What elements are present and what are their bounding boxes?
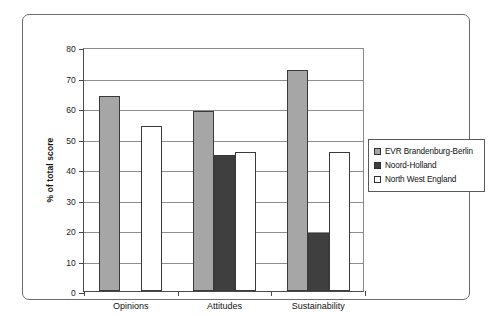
- y-axis-label-10: 10: [66, 258, 76, 268]
- y-axis-tick-80: [79, 49, 84, 50]
- bar-sustainability-series-2: [329, 152, 350, 291]
- y-gridline-60: [84, 110, 363, 111]
- y-axis-label-50: 50: [66, 136, 76, 146]
- y-axis-label-40: 40: [66, 166, 76, 176]
- legend-label-1: Noord-Holland: [385, 161, 437, 170]
- legend-swatch-icon-0: [374, 148, 381, 155]
- chart-frame: % of total score 01020304050607080Opinio…: [22, 14, 470, 300]
- plot-area: 01020304050607080OpinionsAttitudesSustai…: [83, 48, 364, 292]
- y-axis-tick-50: [79, 141, 84, 142]
- x-axis-tick-1: [271, 291, 272, 296]
- bar-opinions-series-0: [99, 96, 120, 291]
- y-axis-label-70: 70: [66, 75, 76, 85]
- y-gridline-50: [84, 141, 363, 142]
- bar-sustainability-series-1: [308, 233, 329, 291]
- y-axis-tick-60: [79, 110, 84, 111]
- y-axis-tick-20: [79, 232, 84, 233]
- x-axis-tick-2: [365, 291, 366, 296]
- chart-legend: EVR Brandenburg-BerlinNoord-HollandNorth…: [368, 139, 485, 192]
- legend-swatch-icon-2: [374, 176, 381, 183]
- y-axis-tick-70: [79, 80, 84, 81]
- y-gridline-70: [84, 80, 363, 81]
- legend-label-2: North West England: [385, 175, 456, 184]
- bar-attitudes-series-2: [235, 152, 256, 291]
- legend-item-2: North West England: [374, 172, 479, 186]
- x-axis-tick-0: [178, 291, 179, 296]
- y-axis-title: % of total score: [45, 138, 55, 203]
- legend-label-0: EVR Brandenburg-Berlin: [385, 147, 473, 156]
- y-axis-label-60: 60: [66, 105, 76, 115]
- legend-item-1: Noord-Holland: [374, 158, 479, 172]
- bar-attitudes-series-1: [214, 155, 235, 291]
- y-axis-tick-10: [79, 263, 84, 264]
- y-axis-label-80: 80: [66, 44, 76, 54]
- y-axis-label-0: 0: [71, 288, 76, 298]
- chart-page: % of total score 01020304050607080Opinio…: [0, 0, 490, 316]
- x-axis-tick-origin: [84, 291, 85, 296]
- bar-sustainability-series-0: [287, 70, 308, 291]
- bar-attitudes-series-0: [193, 111, 214, 291]
- y-axis-tick-30: [79, 202, 84, 203]
- y-axis-label-20: 20: [66, 227, 76, 237]
- bar-opinions-series-2: [141, 126, 162, 291]
- x-axis-label-attitudes: Attitudes: [207, 301, 242, 311]
- x-axis-label-opinions: Opinions: [113, 301, 149, 311]
- legend-item-0: EVR Brandenburg-Berlin: [374, 144, 479, 158]
- y-axis-label-30: 30: [66, 197, 76, 207]
- x-axis-label-sustainability: Sustainability: [292, 301, 345, 311]
- legend-swatch-icon-1: [374, 162, 381, 169]
- y-axis-tick-40: [79, 171, 84, 172]
